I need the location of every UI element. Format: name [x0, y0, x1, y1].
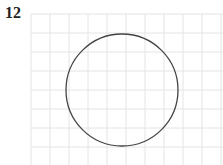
circle-on-grid-figure: [0, 0, 223, 165]
